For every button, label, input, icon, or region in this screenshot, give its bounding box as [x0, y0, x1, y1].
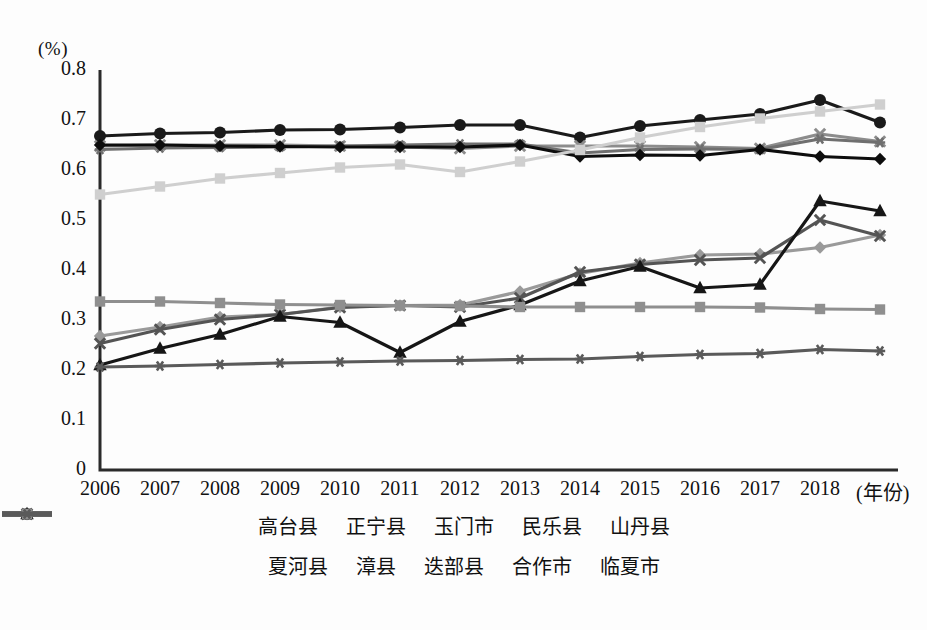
- data-point-square: [395, 159, 405, 169]
- data-point-asterisk: [635, 352, 645, 361]
- data-point-square: [215, 173, 225, 183]
- data-point-asterisk: [335, 358, 345, 367]
- data-point-circle: [274, 124, 286, 136]
- legend-item-迭部县[interactable]: 迭部县: [424, 551, 484, 580]
- data-point-square: [515, 156, 525, 166]
- data-point-asterisk: [215, 360, 225, 369]
- legend-item-临夏市[interactable]: 临夏市: [600, 551, 660, 580]
- data-point-asterisk: [755, 349, 765, 358]
- data-point-asterisk: [515, 355, 525, 364]
- data-point-square: [635, 132, 645, 142]
- data-point-square: [95, 189, 105, 199]
- data-point-square: [575, 145, 585, 155]
- data-point-diamond: [874, 153, 886, 165]
- data-point-circle: [214, 127, 226, 139]
- data-point-square: [335, 162, 345, 172]
- legend-item-高台县[interactable]: 高台县: [258, 511, 318, 540]
- data-point-circle: [454, 119, 466, 131]
- legend-item-玉门市[interactable]: 玉门市: [434, 511, 494, 540]
- data-point-asterisk: [815, 345, 825, 354]
- data-point-circle: [814, 94, 826, 106]
- legend-item-label: 迭部县: [424, 551, 484, 580]
- legend-marker-asterisk-icon: [0, 505, 54, 523]
- data-point-square: [815, 106, 825, 116]
- data-point-asterisk: [22, 510, 32, 519]
- data-point-square: [395, 300, 405, 310]
- chart-legend: 高台县正宁县玉门市民乐县山丹县夏河县漳县迭部县合作市临夏市: [0, 505, 927, 585]
- data-point-square: [695, 302, 705, 312]
- legend-row: 夏河县漳县迭部县合作市临夏市: [0, 545, 927, 585]
- series-夏河县: [94, 229, 886, 342]
- legend-item-label: 合作市: [512, 551, 572, 580]
- data-point-asterisk: [275, 359, 285, 368]
- legend-item-label: 山丹县: [610, 511, 670, 540]
- data-point-circle: [394, 122, 406, 134]
- legend-item-label: 临夏市: [600, 551, 660, 580]
- data-point-diamond: [814, 150, 826, 162]
- data-point-square: [275, 168, 285, 178]
- legend-item-漳县[interactable]: 漳县: [356, 551, 396, 580]
- data-point-square: [155, 181, 165, 191]
- data-point-square: [755, 113, 765, 123]
- legend-item-label: 玉门市: [434, 511, 494, 540]
- data-point-square: [155, 296, 165, 306]
- legend-item-label: 高台县: [258, 511, 318, 540]
- legend-row: 高台县正宁县玉门市民乐县山丹县: [0, 505, 927, 545]
- data-point-square: [815, 304, 825, 314]
- data-point-circle: [154, 128, 166, 140]
- data-point-square: [875, 99, 885, 109]
- data-point-asterisk: [695, 350, 705, 359]
- data-point-square: [515, 302, 525, 312]
- data-point-asterisk: [875, 347, 885, 356]
- data-point-square: [275, 299, 285, 309]
- legend-item-label: 漳县: [356, 551, 396, 580]
- data-point-square: [215, 298, 225, 308]
- data-point-square: [95, 296, 105, 306]
- data-point-square: [875, 304, 885, 314]
- data-point-triangle: [813, 194, 826, 206]
- data-point-square: [335, 300, 345, 310]
- chart-root: (%) 0.80.70.60.50.40.30.20.10 2006200720…: [0, 0, 927, 630]
- series-漳县: [95, 215, 885, 349]
- data-point-diamond: [814, 241, 826, 253]
- data-point-square: [695, 122, 705, 132]
- legend-item-label: 正宁县: [346, 511, 406, 540]
- data-point-square: [575, 302, 585, 312]
- legend-item-山丹县[interactable]: 山丹县: [610, 511, 670, 540]
- data-point-square: [755, 302, 765, 312]
- legend-item-夏河县[interactable]: 夏河县: [268, 551, 328, 580]
- legend-item-民乐县[interactable]: 民乐县: [522, 511, 582, 540]
- legend-item-label: 夏河县: [268, 551, 328, 580]
- legend-item-正宁县[interactable]: 正宁县: [346, 511, 406, 540]
- data-point-asterisk: [455, 356, 465, 365]
- data-point-circle: [634, 120, 646, 132]
- legend-item-合作市[interactable]: 合作市: [512, 551, 572, 580]
- data-point-circle: [874, 117, 886, 129]
- data-point-circle: [334, 124, 346, 136]
- data-point-circle: [514, 119, 526, 131]
- data-point-square: [635, 302, 645, 312]
- series-迭部县: [93, 194, 886, 370]
- data-point-asterisk: [395, 357, 405, 366]
- legend-item-label: 民乐县: [522, 511, 582, 540]
- data-point-asterisk: [575, 355, 585, 364]
- data-point-asterisk: [155, 362, 165, 371]
- series-临夏市: [95, 345, 885, 371]
- data-point-square: [455, 301, 465, 311]
- data-point-square: [455, 167, 465, 177]
